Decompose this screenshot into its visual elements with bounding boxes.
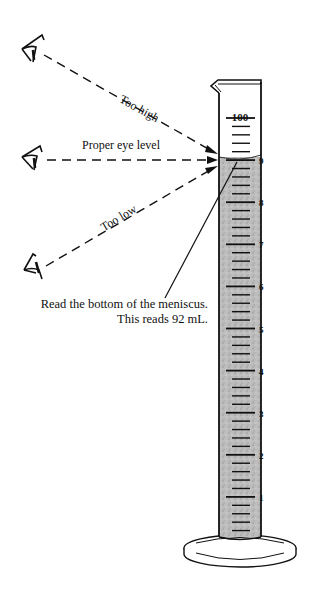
scale-label-9: 9: [259, 156, 264, 166]
scale-label-7: 7: [259, 240, 264, 250]
eye-icon-proper-level: [22, 146, 42, 170]
caption: Read the bottom of the meniscus. This re…: [14, 297, 208, 327]
scale-label-8: 8: [259, 198, 264, 208]
cylinder-body: [211, 80, 261, 540]
eye-icon-too-high: [22, 35, 44, 62]
label-proper-eye-level: Proper eye level: [82, 138, 160, 153]
scale-label-4: 4: [259, 367, 264, 377]
scale-labels: 987654321: [259, 156, 264, 503]
scale-label-3: 3: [259, 409, 264, 419]
scale-label-5: 5: [259, 325, 264, 335]
scale-label-2: 2: [259, 451, 264, 461]
arrowheads: [205, 145, 218, 174]
sight-lines: [44, 55, 210, 266]
scale-label-1: 1: [259, 493, 264, 503]
eye-icon-too-low: [24, 254, 42, 279]
caption-line-2: This reads 92 mL.: [14, 312, 208, 327]
caption-line-1: Read the bottom of the meniscus.: [14, 297, 208, 312]
scale-label-100: 100: [232, 111, 249, 123]
scale-label-6: 6: [259, 282, 264, 292]
